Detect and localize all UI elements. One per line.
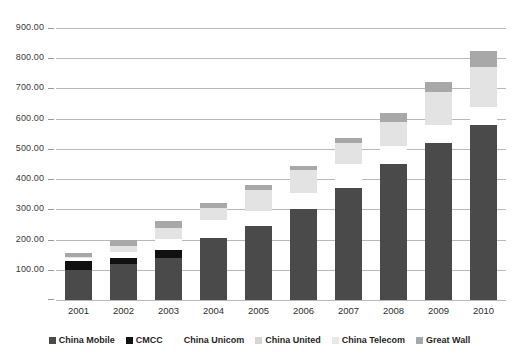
- y-axis-tick-label: 600.00: [0, 113, 44, 123]
- legend-item[interactable]: Great Wall: [416, 335, 470, 345]
- bar-stack[interactable]: [245, 185, 272, 300]
- x-axis-label: 2006: [281, 305, 326, 316]
- y-axis-tick: [48, 58, 54, 59]
- bar-segment[interactable]: [155, 228, 182, 239]
- legend-swatch-icon: [174, 337, 181, 344]
- y-axis-tick-label: 500.00: [0, 143, 44, 153]
- bar-segment[interactable]: [380, 122, 407, 146]
- bar-segment[interactable]: [335, 143, 362, 164]
- bar-stack[interactable]: [290, 166, 317, 300]
- bar-segment[interactable]: [470, 125, 497, 300]
- bar-series-layer: [56, 28, 506, 300]
- legend-swatch-icon: [49, 337, 56, 344]
- x-axis-label: 2008: [371, 305, 416, 316]
- x-axis-label: 2002: [101, 305, 146, 316]
- y-axis-tick-label: 700.00: [0, 82, 44, 92]
- bar-stack[interactable]: [335, 138, 362, 300]
- bar-segment[interactable]: [110, 264, 137, 300]
- legend-swatch-icon: [255, 337, 262, 344]
- bar-segment[interactable]: [245, 190, 272, 211]
- legend-item[interactable]: China Mobile: [49, 335, 115, 345]
- bar-stack[interactable]: [425, 82, 452, 300]
- x-axis-label: 2003: [146, 305, 191, 316]
- x-axis-label: 2001: [56, 305, 101, 316]
- bar-stack[interactable]: [65, 253, 92, 300]
- legend-item[interactable]: CMCC: [126, 335, 163, 345]
- chart-legend: China MobileCMCCChina UnicomChina United…: [0, 335, 519, 345]
- x-axis-label: 2004: [191, 305, 236, 316]
- y-axis-tick: [48, 270, 54, 271]
- legend-label: CMCC: [136, 335, 163, 345]
- legend-label: Great Wall: [426, 335, 470, 345]
- bar-stack[interactable]: [470, 51, 497, 300]
- legend-label: China Mobile: [59, 335, 115, 345]
- y-axis-tick: [48, 149, 54, 150]
- y-axis-tick-label: 400.00: [0, 173, 44, 183]
- bar-segment[interactable]: [425, 82, 452, 91]
- bar-segment[interactable]: [290, 193, 317, 210]
- bar-segment[interactable]: [200, 208, 227, 220]
- legend-label: China United: [265, 335, 321, 345]
- y-axis-tick-label: 900.00: [0, 22, 44, 32]
- bar-segment[interactable]: [200, 238, 227, 300]
- bar-stack[interactable]: [110, 240, 137, 300]
- bar-segment[interactable]: [380, 113, 407, 122]
- x-axis-labels: 2001200220032004200520062007200820092010: [56, 303, 506, 321]
- bar-segment[interactable]: [155, 258, 182, 300]
- bar-segment[interactable]: [425, 125, 452, 143]
- x-axis-label: 2009: [416, 305, 461, 316]
- bar-segment[interactable]: [290, 209, 317, 300]
- y-axis-tick-label: 100.00: [0, 264, 44, 274]
- y-axis-tick: [48, 119, 54, 120]
- bar-segment[interactable]: [380, 146, 407, 164]
- bar-segment[interactable]: [155, 239, 182, 250]
- stacked-bar-chart: 100.00200.00300.00400.00500.00600.00700.…: [0, 0, 519, 359]
- x-axis-line: [56, 300, 506, 301]
- bar-segment[interactable]: [470, 51, 497, 68]
- legend-swatch-icon: [416, 337, 423, 344]
- legend-swatch-icon: [126, 337, 133, 344]
- legend-item[interactable]: China United: [255, 335, 321, 345]
- bar-stack[interactable]: [200, 203, 227, 300]
- y-axis-tick: [48, 28, 54, 29]
- bar-segment[interactable]: [155, 250, 182, 258]
- x-axis-label: 2005: [236, 305, 281, 316]
- x-axis-label: 2007: [326, 305, 371, 316]
- y-axis-tick-label: 800.00: [0, 52, 44, 62]
- x-axis-label: 2010: [461, 305, 506, 316]
- bar-segment[interactable]: [65, 261, 92, 269]
- y-axis-tick-label: 300.00: [0, 203, 44, 213]
- legend-label: China Telecom: [342, 335, 405, 345]
- legend-label: China Unicom: [184, 335, 245, 345]
- bar-stack[interactable]: [380, 113, 407, 300]
- bar-segment[interactable]: [470, 67, 497, 106]
- bar-segment[interactable]: [425, 143, 452, 300]
- bar-segment[interactable]: [335, 188, 362, 300]
- legend-swatch-icon: [332, 337, 339, 344]
- bar-segment[interactable]: [470, 107, 497, 125]
- bar-stack[interactable]: [155, 221, 182, 300]
- legend-item[interactable]: China Telecom: [332, 335, 405, 345]
- bar-segment[interactable]: [380, 164, 407, 300]
- bar-segment[interactable]: [200, 220, 227, 238]
- bar-segment[interactable]: [425, 92, 452, 125]
- bar-segment[interactable]: [245, 211, 272, 226]
- legend-item[interactable]: China Unicom: [174, 335, 245, 345]
- bar-segment[interactable]: [290, 170, 317, 193]
- bar-segment[interactable]: [335, 164, 362, 188]
- y-axis-tick: [48, 88, 54, 89]
- y-axis-tick: [48, 240, 54, 241]
- y-axis-tick: [48, 209, 54, 210]
- y-axis-tick-label: 200.00: [0, 234, 44, 244]
- y-axis-tick: [48, 179, 54, 180]
- bar-segment[interactable]: [245, 226, 272, 300]
- x-axis-origin-tick: [48, 299, 54, 300]
- bar-segment[interactable]: [65, 270, 92, 300]
